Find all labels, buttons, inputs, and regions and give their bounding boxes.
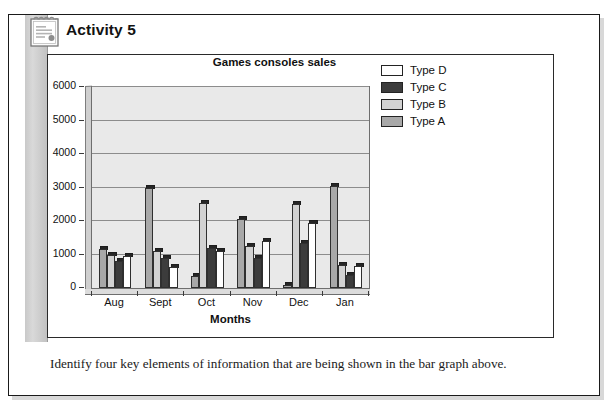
bar (216, 251, 224, 288)
x-axis-tick-mark (137, 291, 138, 296)
legend-swatch (381, 82, 403, 93)
bar (115, 261, 123, 288)
bar (107, 255, 115, 289)
gridline (92, 120, 369, 121)
gridline (92, 86, 369, 87)
x-axis-tick-mark (91, 291, 92, 296)
legend-label: Type A (410, 115, 445, 127)
y-axis-tick-mark (79, 120, 84, 121)
chart-title: Games consoles sales (132, 56, 417, 68)
y-axis-tick-mark (79, 220, 84, 221)
x-axis-tick-label: Jan (322, 296, 368, 308)
chart-legend: Type DType CType BType A (381, 62, 501, 130)
legend-swatch (381, 65, 403, 76)
gridline (92, 153, 369, 154)
bar (99, 249, 107, 288)
gridline (92, 254, 369, 255)
y-axis-tick-label: 0 (70, 280, 76, 292)
legend-swatch (381, 99, 403, 110)
y-axis-tick-label: 4000 (53, 146, 76, 158)
y-axis-tick-label: 3000 (53, 180, 76, 192)
x-axis-title: Months (91, 313, 370, 325)
x-axis-tick-mark (276, 291, 277, 296)
bar (330, 186, 338, 288)
bar (207, 248, 215, 288)
x-axis-tick-label: Dec (276, 296, 322, 308)
gridline (92, 220, 369, 221)
legend-label: Type C (410, 81, 446, 93)
legend-item: Type B (381, 96, 501, 112)
x-axis-tick-label: Sept (137, 296, 183, 308)
bar (145, 188, 153, 289)
page-title: Activity 5 (66, 21, 136, 39)
legend-swatch (381, 116, 403, 127)
legend-label: Type D (410, 64, 446, 76)
bar (245, 246, 253, 288)
activity-caption: Identify four key elements of informatio… (50, 356, 580, 372)
y-axis-tick-label: 2000 (53, 213, 76, 225)
left-decorative-bar (25, 15, 48, 342)
y-axis-tick-label: 6000 (53, 79, 76, 91)
bar (292, 204, 300, 288)
x-axis-tick-mark (230, 291, 231, 296)
x-axis-tick-mark (183, 291, 184, 296)
bar (354, 266, 362, 288)
x-axis-tick-mark (368, 291, 369, 296)
bar (153, 251, 161, 288)
legend-item: Type D (381, 62, 501, 78)
legend-item: Type C (381, 79, 501, 95)
chart-panel: Games consoles sales 0100020003000400050… (47, 54, 554, 338)
notepad-icon (26, 12, 64, 50)
y-axis-tick-mark (79, 254, 84, 255)
legend-label: Type B (410, 98, 446, 110)
plot-canvas (91, 86, 370, 289)
bar (254, 258, 262, 288)
bar (262, 241, 270, 288)
gridline (92, 187, 369, 188)
bar (308, 223, 316, 288)
y-axis-tick-mark (79, 86, 84, 87)
bar (338, 265, 346, 288)
plot-area (85, 86, 370, 294)
bar (191, 276, 199, 288)
x-axis-tick-mark (322, 291, 323, 296)
y-axis-tick-mark (79, 287, 84, 288)
bar (123, 256, 131, 288)
page-root: Activity 5 Games consoles sales 01000200… (0, 0, 611, 419)
x-axis-tick-label: Nov (230, 296, 276, 308)
bar (300, 243, 308, 288)
bar (346, 275, 354, 288)
plot-3d-floor (85, 289, 370, 295)
legend-item: Type A (381, 113, 501, 129)
y-axis-tick-mark (79, 187, 84, 188)
y-axis-tick-label: 5000 (53, 113, 76, 125)
y-axis-tick-labels: 0100020003000400050006000 (48, 86, 84, 294)
y-axis-tick-mark (79, 153, 84, 154)
y-axis-tick-label: 1000 (53, 247, 76, 259)
bar (199, 203, 207, 288)
bar (169, 267, 177, 288)
bar (237, 219, 245, 288)
x-axis-tick-labels: AugSeptOctNovDecJan (91, 296, 370, 312)
x-axis-tick-label: Aug (91, 296, 137, 308)
bar (161, 258, 169, 288)
x-axis-tick-label: Oct (183, 296, 229, 308)
bar (283, 285, 291, 288)
